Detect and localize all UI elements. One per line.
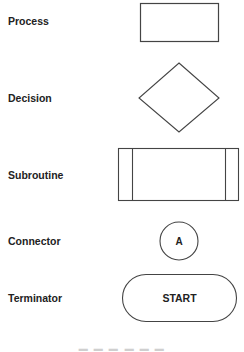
decision-shape — [139, 63, 219, 132]
caption-cutoff: ▁ ▁ ▁ ▁ ▁ ▁ — [0, 338, 244, 352]
process-shape — [141, 4, 219, 42]
subroutine-shape — [119, 149, 239, 201]
terminator-text: START — [162, 292, 197, 304]
connector-text: A — [175, 236, 182, 247]
